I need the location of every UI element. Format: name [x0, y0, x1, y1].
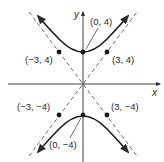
point-lower-right: [105, 113, 110, 118]
label-lower-left: (−3, −4): [17, 101, 50, 112]
point-upper-left: [57, 50, 62, 55]
label-vertex-bottom: (0, −4): [49, 139, 77, 150]
diagram-canvas: y x (0, 4) (−3, 4) (3, 4) (−3, −4) (3, −…: [0, 0, 164, 162]
point-lower-left: [57, 113, 62, 118]
x-axis-label: x: [151, 87, 158, 98]
label-vertex-top: (0, 4): [90, 16, 112, 27]
point-vertex-bottom: [81, 113, 86, 118]
point-upper-right: [105, 50, 110, 55]
label-lower-right: (3, −4): [111, 101, 139, 112]
label-upper-right: (3, 4): [112, 54, 134, 65]
y-axis-label: y: [73, 9, 80, 20]
point-vertex-top: [81, 50, 86, 55]
leader-vertex-top: [86, 28, 98, 49]
leader-vertex-bottom: [70, 118, 81, 138]
hyperbola-diagram: y x (0, 4) (−3, 4) (3, 4) (−3, −4) (3, −…: [0, 0, 164, 162]
label-upper-left: (−3, 4): [25, 54, 53, 65]
